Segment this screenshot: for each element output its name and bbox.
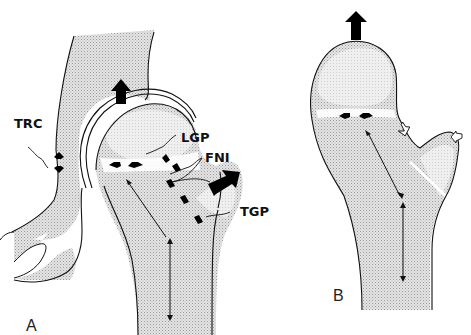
panel-label-a: A [26, 318, 37, 334]
panel-label-b: B [333, 288, 344, 304]
label-tgp: TGP [240, 205, 269, 218]
force-arrow-up-b [345, 11, 367, 40]
label-fni: FNI [205, 151, 230, 164]
label-lgp: LGP [181, 131, 209, 144]
label-trc: TRC [14, 117, 42, 130]
hip-growth-diagram [0, 0, 471, 335]
panel-b [311, 11, 462, 310]
panel-a [0, 30, 243, 335]
trc-leader [28, 147, 48, 168]
